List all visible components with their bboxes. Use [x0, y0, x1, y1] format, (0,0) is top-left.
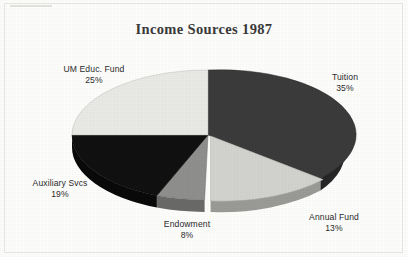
slice-label-um-educ-fund: UM Educ. Fund 25%	[46, 64, 142, 87]
slice-label-annual-fund-percent: 13%	[288, 223, 380, 234]
slice-label-annual-fund-name: Annual Fund	[309, 212, 359, 222]
slice-label-tuition-name: Tuition	[332, 72, 358, 82]
slice-label-um-educ-fund-name: UM Educ. Fund	[63, 64, 124, 74]
slice-label-um-educ-fund-percent: 25%	[46, 75, 142, 86]
slice-label-auxiliary: Auxiliary Svcs 19%	[13, 178, 107, 201]
slice-label-endowment: Endowment 8%	[142, 219, 232, 242]
pie-chart: UM Educ. Fund 25% Tuition 35% Auxiliary …	[0, 0, 408, 257]
slice-label-endowment-name: Endowment	[164, 219, 210, 229]
slice-label-tuition-percent: 35%	[309, 83, 381, 94]
slice-label-tuition: Tuition 35%	[309, 72, 381, 95]
slice-label-endowment-percent: 8%	[142, 230, 232, 241]
slice-label-auxiliary-name: Auxiliary Svcs	[33, 178, 88, 188]
slice-label-auxiliary-percent: 19%	[13, 189, 107, 200]
chart-page: Income Sources 1987	[0, 0, 408, 257]
slice-label-annual-fund: Annual Fund 13%	[288, 212, 380, 235]
